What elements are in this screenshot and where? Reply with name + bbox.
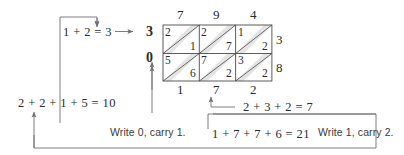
grid-bottom-label-0: 1 [177, 83, 184, 96]
cell-1-0-upper: 5 [165, 55, 171, 67]
annotation-sum-middle: 1 + 7 + 7 + 6 = 21 [212, 128, 310, 141]
annotation-carry-top-left: 1 + 2 = 3 [63, 26, 112, 39]
grid-bottom-label-2: 2 [250, 83, 257, 96]
result-digit-row-1: 0 [146, 51, 153, 65]
annotation-sum-left: 2 + 2 + 1 + 5 = 10 [18, 97, 116, 110]
grid-top-label-1: 9 [213, 8, 220, 21]
annotation-sum-right: 2 + 3 + 2 = 7 [243, 101, 313, 114]
grid-right-label-0: 3 [276, 33, 283, 46]
annotation-note-write1: Write 1, carry 2. [318, 127, 394, 138]
cell-0-1-lower: 7 [226, 41, 232, 53]
cell-0-2-lower: 2 [262, 41, 268, 53]
cell-0-1-upper: 2 [201, 27, 207, 39]
cell-1-0-lower: 6 [190, 68, 196, 80]
grid-right-label-1: 8 [276, 61, 283, 74]
arrow-right-sum-to-seven [211, 97, 235, 107]
grid-top-label-0: 7 [177, 8, 184, 21]
grid-top-label-2: 4 [250, 8, 257, 21]
cell-1-1-upper: 7 [201, 55, 207, 67]
cell-0-0-lower: 1 [190, 41, 196, 53]
lattice-multiplication-diagram: 7 9 4 3 8 1 7 2 3 0 2 1 2 7 1 2 5 6 7 2 … [0, 0, 404, 155]
result-digit-row-0: 3 [146, 25, 153, 39]
lattice-shading [163, 25, 272, 81]
cell-1-1-lower: 2 [226, 68, 232, 80]
cell-1-2-upper: 3 [238, 55, 244, 67]
cell-0-0-upper: 2 [165, 27, 171, 39]
cell-1-2-lower: 2 [262, 68, 268, 80]
grid-bottom-label-1: 7 [213, 83, 220, 96]
cell-0-2-upper: 1 [238, 27, 244, 39]
annotation-note-write0: Write 0, carry 1. [110, 127, 186, 138]
